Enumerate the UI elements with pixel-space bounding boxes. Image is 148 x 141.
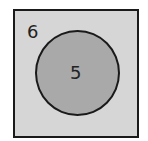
- set-count-label: 5: [70, 64, 81, 82]
- universe-count-label: 6: [27, 23, 38, 41]
